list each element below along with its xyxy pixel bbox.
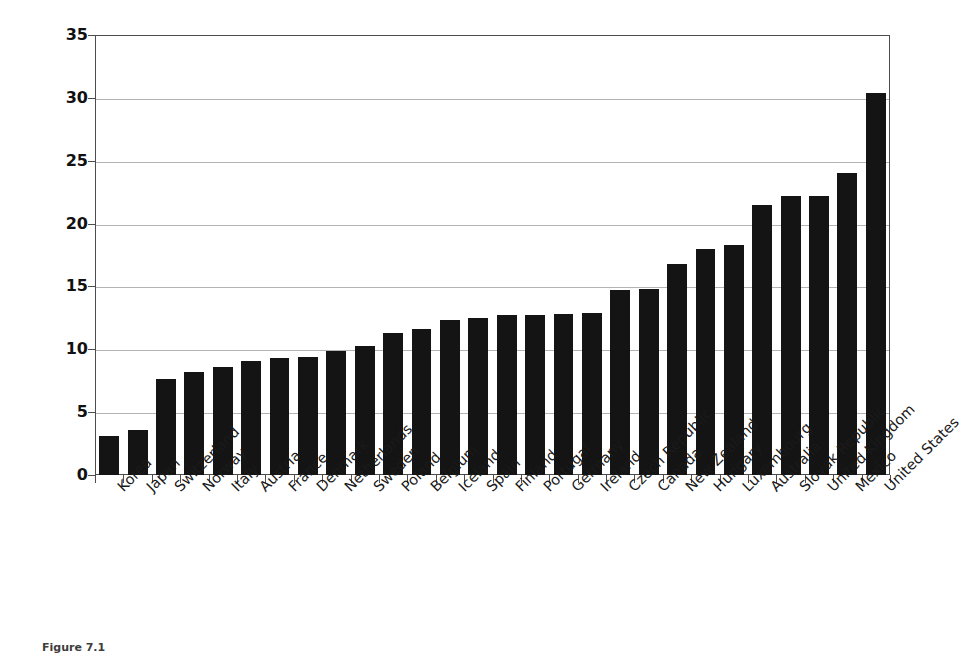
x-tick-label: Canada [655, 484, 665, 494]
figure-caption: Figure 7.1 [42, 641, 105, 654]
bar-slot [351, 35, 379, 475]
y-tick-label-20: 20 [48, 216, 88, 232]
y-tick-label-35: 35 [48, 27, 88, 43]
y-tick-label-15: 15 [48, 278, 88, 294]
x-tick-label: Australia [768, 484, 778, 494]
bar [497, 315, 517, 475]
bar-slot [464, 35, 492, 475]
y-tick-label-5: 5 [48, 404, 88, 420]
bar-slot [180, 35, 208, 475]
bar [99, 436, 119, 475]
bar-slot [805, 35, 833, 475]
bar-slot [833, 35, 861, 475]
bar-slot [294, 35, 322, 475]
x-tick-label: Poland [399, 484, 409, 494]
x-tick-label: Ireland [598, 484, 608, 494]
x-tick-label: Italy [229, 484, 239, 494]
y-tick-mark-30 [88, 98, 95, 99]
bar-series [95, 35, 890, 475]
bar-slot [634, 35, 662, 475]
y-tick-mark-10 [88, 349, 95, 350]
x-tick-label: Luxembourg [740, 484, 750, 494]
y-tick-mark-15 [88, 286, 95, 287]
bar-slot [606, 35, 634, 475]
bar-slot [322, 35, 350, 475]
y-tick-mark-0 [88, 475, 95, 476]
x-tick-label: France [286, 484, 296, 494]
x-tick-label: Denmark [314, 484, 324, 494]
x-tick-label: United States [882, 484, 892, 494]
x-tick-label: Germany [569, 484, 579, 494]
x-tick-label: Hungary [711, 484, 721, 494]
x-tick-label: Japan [144, 484, 154, 494]
x-tick-label: Iceland [456, 484, 466, 494]
x-axis-labels: KoreaJapanSwitzerlandNorwayItalyAustriaF… [95, 484, 890, 634]
bar-slot [521, 35, 549, 475]
bar-slot [748, 35, 776, 475]
x-tick-label: Czech Republic [626, 484, 636, 494]
x-tick-label: Belgium [428, 484, 438, 494]
bar-slot [237, 35, 265, 475]
x-tick-label: Portugal [541, 484, 551, 494]
x-tick-label: Sweden [371, 484, 381, 494]
x-tick-label: Norway [200, 484, 210, 494]
y-tick-label-10: 10 [48, 341, 88, 357]
bar [752, 205, 772, 475]
bar [639, 289, 659, 475]
bar [525, 315, 545, 475]
x-tick-label: New Zealand [683, 484, 693, 494]
x-tick-label: Switzerland [172, 484, 182, 494]
y-axis-ticks: 05101520253035 [40, 35, 88, 475]
bar-slot [265, 35, 293, 475]
y-tick-label-30: 30 [48, 90, 88, 106]
x-tick-label: Austria [257, 484, 267, 494]
y-tick-label-25: 25 [48, 153, 88, 169]
x-tick-label: Netherlands [342, 484, 352, 494]
y-tick-label-0: 0 [48, 467, 88, 483]
bar-slot [95, 35, 123, 475]
bar-slot [549, 35, 577, 475]
x-tick-label: Finland [513, 484, 523, 494]
bar-slot [209, 35, 237, 475]
bar-slot [379, 35, 407, 475]
bar-slot [720, 35, 748, 475]
bar-slot [407, 35, 435, 475]
x-tick-label: Mexico [853, 484, 863, 494]
bar [554, 314, 574, 475]
y-tick-mark-5 [88, 412, 95, 413]
y-tick-mark-20 [88, 224, 95, 225]
bar-slot [578, 35, 606, 475]
bar [696, 249, 716, 475]
x-tick-label: Slovak Republic [797, 484, 807, 494]
x-tick-label: Korea [115, 484, 125, 494]
bar-slot [123, 35, 151, 475]
y-tick-mark-25 [88, 161, 95, 162]
y-tick-mark-35 [88, 35, 95, 36]
bar-slot [152, 35, 180, 475]
x-tick-label: United Kingdom [825, 484, 835, 494]
bar-slot [776, 35, 804, 475]
bar-slot [436, 35, 464, 475]
bar-slot [493, 35, 521, 475]
x-tick-mark [95, 475, 96, 483]
bar-slot [663, 35, 691, 475]
x-tick-label: Spain [484, 484, 494, 494]
